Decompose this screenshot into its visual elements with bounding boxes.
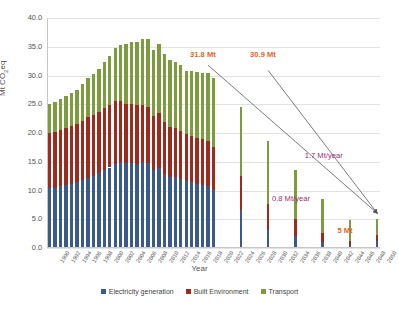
bar-segment (157, 44, 160, 112)
x-tick-label: 2024 (244, 250, 256, 264)
chart-legend: Electricity generationBuilt EnvironmentT… (0, 288, 399, 295)
bar-segment (146, 163, 149, 248)
bar-segment (70, 93, 73, 126)
bar-segment (53, 132, 56, 187)
bar-segment (168, 60, 171, 127)
bar-segment (294, 219, 296, 236)
x-tick-label: 2018 (211, 250, 223, 264)
x-tick-label: 1996 (91, 250, 103, 264)
bar-segment (212, 190, 215, 248)
bar-segment (92, 74, 95, 115)
bar-segment (157, 113, 160, 168)
table-row (294, 18, 296, 248)
legend-item[interactable]: Transport (261, 288, 299, 295)
table-row (179, 18, 182, 248)
table-row (376, 18, 378, 248)
table-row (86, 18, 89, 248)
bar-segment (119, 162, 122, 248)
bar-segment (130, 104, 133, 163)
y-tick-label: 25.0 (8, 100, 42, 108)
bar-segment (146, 107, 149, 163)
bar-segment (195, 72, 198, 138)
bar-segment (195, 184, 198, 248)
bar-segment (141, 162, 144, 248)
bar-segment (152, 170, 155, 248)
y-tick-label: 35.0 (8, 43, 42, 51)
legend-label: Built Environment (194, 288, 249, 295)
bar-segment (174, 62, 177, 128)
bar-segment (195, 138, 198, 184)
table-row (130, 18, 133, 248)
bar-segment (103, 170, 106, 248)
x-tick-label: 1992 (69, 250, 81, 264)
chart-annotation: 0.8 Mt/year (272, 194, 310, 203)
bar-segment (48, 133, 51, 188)
bar-segment (103, 62, 106, 108)
table-row (92, 18, 95, 248)
table-row (157, 18, 160, 248)
bar-segment (163, 122, 166, 174)
bar-segment (108, 56, 111, 105)
bar-segment (119, 101, 122, 161)
table-row (70, 18, 73, 248)
bar-segment (135, 42, 138, 105)
x-tick-label: 2016 (201, 250, 213, 264)
bar-segment (114, 101, 117, 164)
bar-segment (185, 181, 188, 248)
bar-segment (114, 164, 117, 248)
bar-segment (97, 69, 100, 113)
bar-segment (97, 173, 100, 248)
bar-segment (103, 108, 106, 170)
table-row (108, 18, 111, 248)
bar-segment (321, 199, 323, 234)
bar-segment (146, 39, 149, 107)
bar-segment (179, 179, 182, 248)
bar-segment (48, 104, 51, 133)
table-row (53, 18, 56, 248)
x-tick-label: 1998 (102, 250, 114, 264)
legend-swatch-icon (261, 289, 266, 294)
bar-segment (240, 210, 242, 248)
bar-segment (152, 50, 155, 117)
bar-segment (206, 186, 209, 248)
bar-segment (174, 128, 177, 177)
bar-segment (86, 178, 89, 248)
legend-item[interactable]: Built Environment (186, 288, 249, 295)
bar-segment (267, 230, 269, 248)
bar-segment (119, 45, 122, 101)
bar-segment (86, 78, 89, 117)
x-tick-label: 2014 (190, 250, 202, 264)
table-row (185, 18, 188, 248)
x-tick-label: 2044 (353, 250, 365, 264)
bar-segment (75, 124, 78, 182)
legend-item[interactable]: Electricity generation (101, 288, 174, 295)
bar-segment (141, 39, 144, 105)
bar-segment (81, 84, 84, 121)
bar-segment (64, 185, 67, 248)
bar-segment (53, 102, 56, 132)
bar-segment (59, 99, 62, 130)
bar-segment (59, 130, 62, 186)
bar-segment (185, 134, 188, 181)
legend-label: Transport (269, 288, 299, 295)
x-tick-label: 1994 (80, 250, 92, 264)
bar-segment (349, 241, 351, 245)
legend-label: Electricity generation (109, 288, 174, 295)
chart-annotation: 30.9 Mt (250, 50, 276, 59)
table-row (103, 18, 106, 248)
x-tick-label: 2022 (233, 250, 245, 264)
legend-swatch-icon (186, 289, 191, 294)
bar-segment (163, 174, 166, 248)
bar-segment (141, 105, 144, 163)
bar-segment (240, 107, 242, 176)
bar-segment (212, 147, 215, 190)
table-row (168, 18, 171, 248)
bar-segment (174, 177, 177, 248)
table-row (64, 18, 67, 248)
bar-segment (124, 44, 127, 104)
x-tick-label: 1990 (59, 250, 71, 264)
bar-segment (185, 71, 188, 134)
bar-segment (130, 42, 133, 104)
bar-segment (321, 233, 323, 242)
x-tick-label: 2010 (168, 250, 180, 264)
